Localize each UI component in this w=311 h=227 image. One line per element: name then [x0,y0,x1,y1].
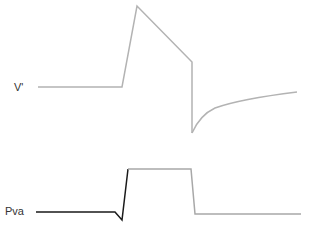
v-prime-recovery-curve [192,92,297,133]
v-prime-trace [38,6,192,133]
waveform-diagram [0,0,311,227]
pva-trace-dark [36,169,128,220]
pva-trace-light [128,169,301,214]
